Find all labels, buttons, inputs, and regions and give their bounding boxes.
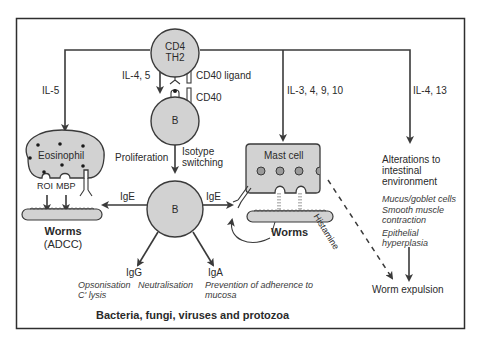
th2-label-line2: TH2 [163, 52, 187, 63]
opsonisation-label: Opsonisation [78, 280, 131, 290]
roi-label: ROI [37, 181, 53, 192]
smooth-muscle-label-line1: Smooth muscle [382, 205, 444, 215]
il5-label: IL-5 [42, 85, 59, 96]
th2-branch-lines [65, 50, 410, 142]
alterations-label-line1: Alterations to [382, 154, 440, 165]
prevention-label-line2: mucosa [205, 290, 237, 300]
igg-arrow [138, 232, 158, 265]
worms-right-label: Worms [271, 227, 308, 238]
worm-expulsion-label: Worm expulsion [372, 284, 444, 295]
isotype-label-line2: switching [182, 157, 223, 168]
prevention-label-line1: Prevention of adherence to [205, 280, 313, 290]
eosinophil-ige-receptor-icon [80, 178, 92, 196]
worms-left-label: Worms [40, 226, 86, 237]
worm-left [22, 208, 102, 220]
cd40-label: CD40 [196, 92, 222, 103]
mast-cell-label: Mast cell [264, 150, 303, 161]
smooth-muscle-label-line2: contraction [382, 215, 426, 225]
b-center-label: B [167, 204, 183, 215]
epithelial-label-line2: hyperplasia [382, 238, 428, 248]
ige-right-label: IgE [206, 191, 221, 202]
th2-label-line1: CD4 [163, 41, 187, 52]
isotype-label-line1: Isotype [182, 146, 214, 157]
eosinophil-label: Eosinophil [38, 150, 84, 161]
proliferation-label: Proliferation [115, 152, 168, 163]
worm-feedback-arrow [232, 220, 270, 242]
il45-label: IL-4, 5 [122, 70, 150, 81]
c-lysis-label: C' lysis [78, 290, 106, 300]
epithelial-label-line1: Epithelial [382, 228, 419, 238]
alterations-label-line3: environment [382, 176, 437, 187]
igg-label: IgG [126, 267, 142, 278]
neutralisation-label: Neutralisation [138, 280, 193, 290]
iga-arrow [193, 232, 213, 265]
mucus-label: Mucus/goblet cells [382, 194, 456, 204]
il4-13-label: IL-4, 13 [413, 85, 447, 96]
diagram-title: Bacteria, fungi, viruses and protozoa [96, 310, 289, 321]
cd40-ligand-label: CD40 ligand [196, 70, 251, 81]
b-top-label: B [167, 115, 183, 126]
worms-left-sub: (ADCC) [40, 239, 86, 250]
il3-4-9-10-label: IL-3, 4, 9, 10 [287, 85, 343, 96]
mbp-label: MBP [56, 181, 76, 192]
ige-left-label: IgE [120, 191, 135, 202]
alterations-label-line2: intestinal [382, 165, 421, 176]
iga-label: IgA [208, 267, 223, 278]
